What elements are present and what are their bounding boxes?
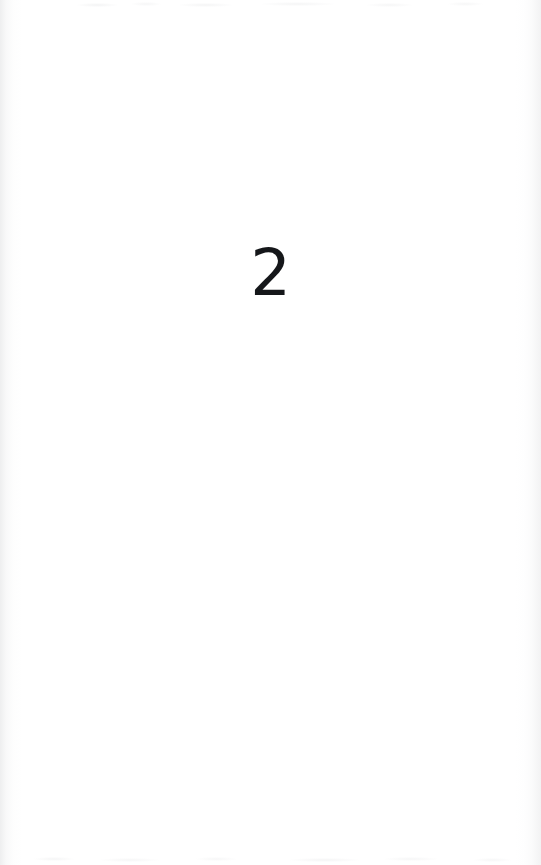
page-number: 2 [0,241,541,305]
bottom-bleed-through-artifact [0,849,541,865]
scanned-page: 2 [0,0,541,865]
left-edge-scan-shadow [0,0,22,865]
top-bleed-through-artifact [0,0,541,14]
right-edge-scan-shadow [515,0,541,865]
